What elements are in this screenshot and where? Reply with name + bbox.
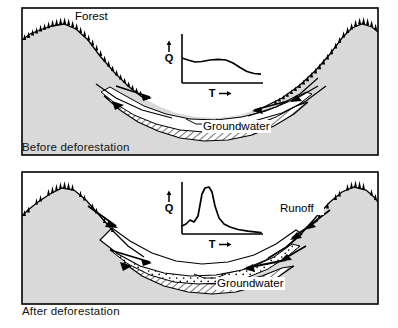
- after-deforestation-illustration: Q T Runoff Groundwater: [0, 164, 398, 328]
- runoff-label-group: Runoff: [278, 202, 324, 215]
- inset-y-arrow-after: [167, 191, 172, 203]
- forest-label: Forest: [75, 10, 108, 22]
- groundwater-label-before: Groundwater: [203, 120, 270, 132]
- inset-y-label-before: Q: [165, 52, 174, 64]
- inset-hydrograph-before: Q T: [165, 34, 264, 99]
- inset-x-arrow-before: [219, 91, 232, 96]
- inset-y-arrow-before: [167, 41, 172, 53]
- groundwater-label-after: Groundwater: [217, 277, 284, 289]
- panel-after-deforestation: Q T Runoff Groundwater After deforestati…: [0, 164, 398, 328]
- deforestation-hydrology-figure: Q T Forest Groundwater Before deforestat…: [0, 0, 398, 328]
- inset-hydrograph-after: Q T: [165, 182, 264, 250]
- caption-after-deforestation: After deforestation: [22, 305, 120, 317]
- groundwater-label-before-group: Groundwater: [202, 120, 271, 133]
- groundwater-label-after-group: Groundwater: [216, 277, 285, 290]
- inset-x-label-before: T: [209, 87, 216, 99]
- inset-y-label-after: Q: [165, 202, 174, 214]
- inset-x-arrow-after: [219, 242, 232, 247]
- panel-before-deforestation: Q T Forest Groundwater Before deforestat…: [0, 0, 398, 164]
- before-deforestation-illustration: Q T Forest Groundwater: [0, 0, 398, 164]
- runoff-label: Runoff: [280, 202, 314, 214]
- inset-x-label-after: T: [209, 238, 216, 250]
- caption-before-deforestation: Before deforestation: [22, 141, 130, 153]
